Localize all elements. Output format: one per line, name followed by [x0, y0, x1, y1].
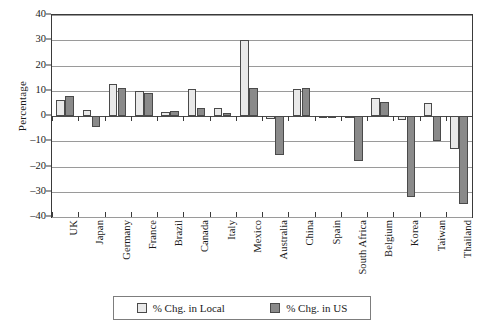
x-tick-mark [446, 116, 447, 121]
bar [223, 113, 232, 116]
y-tick-mark [46, 190, 51, 191]
y-tick-label: 10 [2, 85, 46, 96]
x-axis-tick [157, 212, 158, 217]
x-label-mexico: Mexico [252, 220, 263, 253]
chart-legend: % Chg. in Local % Chg. in US [113, 296, 371, 320]
bar [83, 110, 92, 116]
x-axis-tick [262, 212, 263, 217]
bar [161, 112, 170, 116]
bar [92, 116, 101, 127]
plot-area [51, 14, 473, 218]
x-label-brazil: Brazil [173, 220, 184, 246]
x-label-japan: Japan [94, 220, 105, 244]
x-tick-mark [393, 116, 394, 121]
x-tick-mark [78, 116, 79, 121]
x-tick-mark [105, 116, 106, 121]
bar [170, 111, 179, 116]
x-tick-mark [288, 116, 289, 121]
y-tick-label: –30 [2, 186, 46, 197]
x-axis-tick [78, 212, 79, 217]
x-label-spain: Spain [331, 220, 342, 244]
bar [109, 84, 118, 116]
y-tick-label: –10 [2, 135, 46, 146]
x-axis-tick [210, 212, 211, 217]
bar [380, 102, 389, 116]
x-axis-tick [183, 212, 184, 217]
x-axis-tick [105, 212, 106, 217]
y-tick-label: 30 [2, 34, 46, 45]
y-tick-label: –40 [2, 211, 46, 222]
x-label-germany: Germany [121, 220, 132, 260]
x-tick-mark [315, 116, 316, 121]
x-label-china: China [304, 220, 315, 246]
bar [302, 88, 311, 116]
bar [450, 116, 459, 149]
bar [424, 103, 433, 116]
x-label-taiwan: Taiwan [436, 220, 447, 251]
x-label-belgium: Belgium [383, 220, 394, 257]
x-tick-mark [341, 116, 342, 121]
bar [328, 116, 337, 118]
legend-item-local: % Chg. in Local [137, 302, 225, 314]
x-axis-category-labels: UKJapanGermanyFranceBrazilCanadaItalyMex… [51, 220, 473, 292]
bar-chart: Percentage 403020100–10–20–30–40 UKJapan… [0, 0, 483, 330]
bar [459, 116, 468, 204]
bar [118, 88, 127, 116]
legend-swatch-us-icon [270, 303, 280, 313]
y-tick-mark [46, 216, 51, 217]
y-tick-label: 20 [2, 59, 46, 70]
y-tick-mark [46, 89, 51, 90]
bar [275, 116, 284, 155]
x-tick-mark [210, 116, 211, 121]
y-tick-label: –20 [2, 160, 46, 171]
bar [293, 89, 302, 116]
x-tick-mark [131, 116, 132, 121]
x-axis-tick [315, 212, 316, 217]
x-axis-tick [341, 212, 342, 217]
bar [197, 108, 206, 116]
y-tick-mark [46, 165, 51, 166]
bar [135, 91, 144, 116]
x-axis-tick [393, 212, 394, 217]
x-tick-mark [420, 116, 421, 121]
bar [56, 100, 65, 116]
x-label-south-africa: South Africa [357, 220, 368, 275]
x-label-france: France [147, 220, 158, 249]
bar [240, 40, 249, 116]
x-axis-tick [420, 212, 421, 217]
bar [65, 96, 74, 116]
bar [345, 116, 354, 118]
bar [214, 108, 223, 116]
bar [249, 88, 258, 116]
gridline--40 [52, 217, 472, 218]
y-tick-mark [46, 14, 51, 15]
x-tick-mark [52, 116, 53, 121]
x-label-uk: UK [68, 220, 79, 235]
x-tick-mark [236, 116, 237, 121]
y-tick-mark [46, 140, 51, 141]
legend-swatch-local-icon [137, 303, 147, 313]
legend-label-local: % Chg. in Local [153, 302, 225, 314]
x-axis-tick [446, 212, 447, 217]
y-tick-mark [46, 64, 51, 65]
x-axis-tick [367, 212, 368, 217]
legend-label-us: % Chg. in US [286, 302, 347, 314]
x-label-korea: Korea [409, 220, 420, 246]
x-label-thailand: Thailand [462, 220, 473, 258]
bar [188, 89, 197, 116]
y-tick-label: 40 [2, 9, 46, 20]
bar [144, 93, 153, 116]
bar [433, 116, 442, 141]
bar [354, 116, 363, 161]
bar [371, 98, 380, 116]
legend-item-us: % Chg. in US [270, 302, 347, 314]
x-axis-tick [52, 212, 53, 217]
y-tick-mark [46, 39, 51, 40]
x-tick-mark [157, 116, 158, 121]
bar [407, 116, 416, 197]
x-tick-mark [183, 116, 184, 121]
x-label-italy: Italy [226, 220, 237, 240]
x-axis-tick [236, 212, 237, 217]
bar [266, 116, 275, 119]
bar [398, 116, 407, 120]
